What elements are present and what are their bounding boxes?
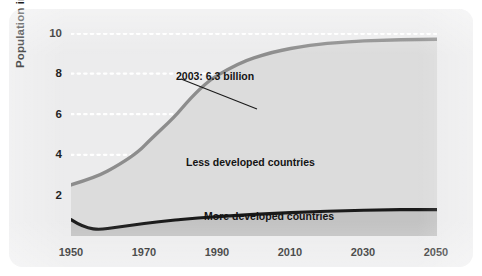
- chart-page: Population in billions 10 8 6 4 2 1950 1…: [0, 0, 482, 276]
- y-tick-8: 8: [40, 67, 62, 79]
- x-tick-1950: 1950: [51, 246, 91, 258]
- plot-area: [71, 33, 437, 236]
- annotation-2003: 2003: 6.3 billion: [176, 70, 254, 82]
- series-label-less-developed: Less developed countries: [186, 156, 315, 168]
- y-tick-10: 10: [40, 27, 62, 39]
- y-tick-4: 4: [40, 148, 62, 160]
- x-tick-1970: 1970: [124, 246, 164, 258]
- series-label-more-developed: More developed countries: [204, 210, 334, 222]
- y-tick-2: 2: [40, 189, 62, 201]
- area-less-developed: [71, 39, 437, 229]
- y-tick-6: 6: [40, 108, 62, 120]
- x-tick-2030: 2030: [343, 246, 383, 258]
- x-tick-2050: 2050: [416, 246, 456, 258]
- y-axis-title: Population in billions: [14, 0, 30, 68]
- x-tick-1990: 1990: [197, 246, 237, 258]
- x-tick-2010: 2010: [270, 246, 310, 258]
